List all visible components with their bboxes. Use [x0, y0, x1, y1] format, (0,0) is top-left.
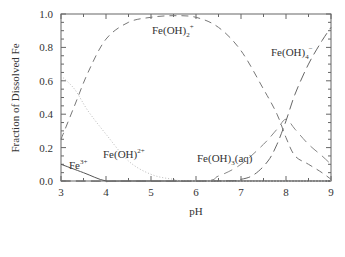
x-tick-label: 5 — [148, 186, 154, 198]
y-tick-label: 0.4 — [39, 108, 53, 120]
y-tick-label: 1.0 — [39, 8, 53, 20]
x-tick-label: 7 — [238, 186, 244, 198]
curve-2 — [61, 16, 331, 180]
label-fe3-plus: Fe3+ — [69, 158, 88, 171]
x-tick-label: 6 — [193, 186, 199, 198]
y-axis-title: Fraction of Dissolved Fe — [9, 43, 21, 152]
y-tick-labels: 0.00.20.40.60.81.0 — [39, 8, 53, 187]
label-fe-oh-2plus: Fe(OH)2+ — [103, 147, 145, 161]
x-tick-labels: 3456789 — [58, 186, 334, 198]
y-tick-label: 0.6 — [39, 75, 53, 87]
y-tick-label: 0.0 — [39, 175, 53, 187]
x-axis-title: pH — [189, 205, 203, 217]
label-fe-oh4-minus: Fe(OH)4− — [271, 45, 313, 61]
x-tick-label: 3 — [58, 186, 64, 198]
plot-frame — [61, 14, 331, 181]
x-tick-label: 8 — [283, 186, 289, 198]
label-fe-oh2-plus: Fe(OH)2+ — [152, 23, 194, 39]
y-tick-label: 0.2 — [39, 142, 53, 154]
x-tick-label: 4 — [103, 186, 109, 198]
axis-ticks — [61, 14, 331, 181]
label-fe-oh3-aq: Fe(OH)3(aq) — [197, 152, 253, 167]
y-tick-label: 0.8 — [39, 41, 53, 53]
curve-1 — [61, 76, 331, 181]
x-tick-label: 9 — [328, 186, 334, 198]
curves — [61, 16, 331, 182]
chart: 3456789 0.00.20.40.60.81.0 pH Fraction o… — [0, 0, 345, 257]
